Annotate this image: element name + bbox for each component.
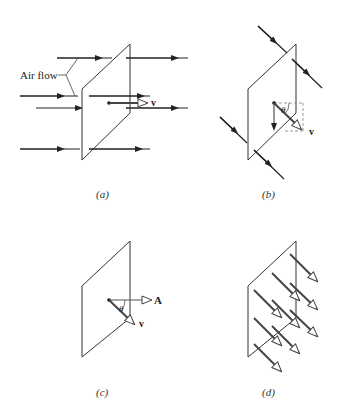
angle-label: θ [281, 105, 286, 115]
panel-b: θ v (b) [220, 26, 322, 201]
oblique-streamlines [220, 26, 322, 179]
diagram-canvas: Air flow v (a) θ v (b) [0, 0, 343, 410]
caption-c: (c) [96, 386, 109, 399]
velocity-label: v [151, 97, 156, 108]
caption-b: (b) [262, 188, 275, 201]
area-vector-label: A [154, 294, 162, 306]
caption-d: (d) [262, 386, 275, 399]
airflow-leader [58, 58, 78, 96]
airflow-label: Air flow [20, 69, 58, 81]
plane-outline [248, 44, 296, 160]
angle-label: θ [119, 304, 124, 314]
plane-outline [82, 241, 130, 357]
angle-arc [285, 103, 289, 114]
velocity-label: v [139, 318, 144, 329]
velocity-vector [274, 103, 301, 129]
caption-a: (a) [96, 188, 109, 201]
velocity-label: v [309, 126, 314, 137]
panel-a: Air flow v (a) [20, 44, 188, 201]
plane-outline [248, 241, 296, 357]
panel-d: (d) [248, 241, 317, 399]
panel-c: A v θ (c) [82, 241, 162, 399]
